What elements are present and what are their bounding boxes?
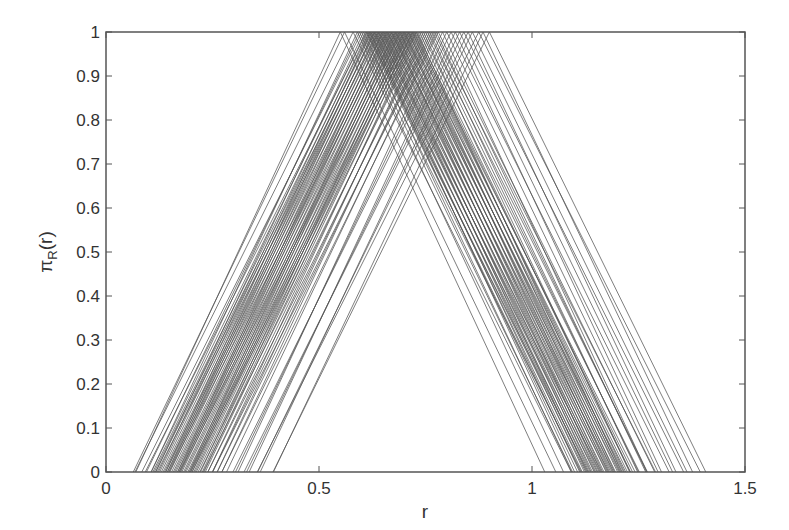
triangle-series-lines — [133, 32, 706, 472]
x-tick-label: 1.5 — [733, 479, 757, 498]
y-tick-label: 0.2 — [76, 375, 100, 394]
possibility-distribution-chart: 00.511.5 00.10.20.30.40.50.60.70.80.91 r… — [0, 0, 789, 530]
triangle-series-line — [167, 32, 579, 472]
y-tick-label: 0 — [91, 463, 100, 482]
y-tick-label: 0.9 — [76, 67, 100, 86]
y-label-tail: (r) — [35, 231, 56, 250]
y-tick-label: 0.6 — [76, 199, 100, 218]
svg-text:πR(r): πR(r) — [35, 231, 60, 272]
x-tick-label: 1 — [527, 479, 536, 498]
y-axis-label: πR(r) — [35, 231, 60, 272]
y-tick-label: 0.5 — [76, 243, 100, 262]
y-tick-label: 0.7 — [76, 155, 100, 174]
y-tick-label: 0.4 — [76, 287, 100, 306]
y-tick-label: 0.8 — [76, 111, 100, 130]
y-label-sub: R — [45, 250, 60, 259]
x-tick-label: 0 — [101, 479, 110, 498]
y-tick-label: 1 — [91, 23, 100, 42]
triangle-series-line — [194, 32, 613, 472]
y-label-main: π — [35, 260, 56, 273]
x-axis-label: r — [422, 501, 429, 522]
x-tick-label: 0.5 — [307, 479, 331, 498]
y-tick-label: 0.1 — [76, 419, 100, 438]
y-tick-label: 0.3 — [76, 331, 100, 350]
